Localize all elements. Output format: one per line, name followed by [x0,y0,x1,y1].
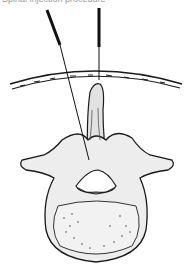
vertebra-illustration [0,0,192,275]
vertebra-bone [21,84,174,262]
